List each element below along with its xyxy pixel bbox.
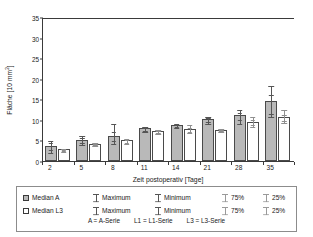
whisker-cap-p75 <box>143 128 147 129</box>
whisker-cap-min <box>187 133 193 134</box>
legend-label: 25% <box>272 194 285 201</box>
y-tick-label: 10 <box>32 117 39 124</box>
whisker-cap-p25 <box>269 114 273 115</box>
legend-label: Median A <box>32 194 60 201</box>
error-bar-icon <box>93 207 99 215</box>
error-bar-icon <box>263 207 269 215</box>
legend-minimum: Minimum <box>155 204 191 217</box>
whisker-cap-max <box>250 117 256 118</box>
legend-note-item: L1 = L1-Serie <box>134 217 173 224</box>
y-tick-label: 5 <box>35 138 39 145</box>
legend-note-item: L3 = L3-Serie <box>187 217 226 224</box>
y-tick-label: 30 <box>32 35 39 42</box>
plot-area: 05101520253035 <box>42 18 294 162</box>
y-tick-label: 0 <box>35 159 39 166</box>
x-axis-label: Zeit postoperativ [Tage] <box>133 176 204 183</box>
bar-median-a <box>171 125 183 161</box>
legend-note: A = A-SerieL1 = L1-SerieL3 = L3-Serie <box>17 217 296 224</box>
error-bar-icon <box>93 194 99 202</box>
legend-maximum: Maximum <box>93 204 131 217</box>
x-tick-mark <box>263 162 264 165</box>
legend-row: Median AMaximumMinimum75%25% <box>17 191 296 204</box>
legend-label: Maximum <box>102 194 131 201</box>
legend-p75: 75% <box>222 204 244 217</box>
whisker-cap-min <box>48 153 54 154</box>
y-axis-label-text: Fläche [10 mm <box>6 70 13 115</box>
whisker-cap-min <box>155 134 161 135</box>
x-tick-mark <box>74 162 75 165</box>
bar-median-a <box>139 128 151 161</box>
whisker-cap-p75 <box>175 125 179 126</box>
legend-label: Maximum <box>102 207 131 214</box>
whisker-cap-p25 <box>93 145 97 146</box>
whisker-cap-p75 <box>206 118 210 119</box>
error-bar-icon <box>155 207 161 215</box>
legend-label: 75% <box>231 207 244 214</box>
filled-square-icon <box>23 195 29 201</box>
open-square-icon <box>23 208 29 214</box>
whisker-cap-p75 <box>80 138 84 139</box>
x-tick-label: 8 <box>111 164 115 171</box>
figure-container: Fläche [10 mm2] 05101520253035 258111421… <box>0 0 313 237</box>
legend-label: Minimum <box>164 194 191 201</box>
whisker-cap-p75 <box>49 143 53 144</box>
whisker-cap-p25 <box>206 122 210 123</box>
y-axis-label: Fläche [10 mm2] <box>5 65 13 115</box>
whisker-cap-p25 <box>143 131 147 132</box>
x-tick-label: 11 <box>141 164 148 171</box>
y-tick-mark <box>40 79 43 80</box>
whisker-cap-p25 <box>219 131 223 132</box>
whisker-cap-min <box>268 117 274 118</box>
whisker-cap-min <box>237 124 243 125</box>
y-axis-label-tail: ] <box>6 65 13 67</box>
y-tick-mark <box>40 141 43 142</box>
legend-label: Minimum <box>164 207 191 214</box>
x-tick-label: 2 <box>48 164 52 171</box>
bar-median-l3 <box>215 130 227 161</box>
y-tick-mark <box>40 100 43 101</box>
x-tick-label: 5 <box>79 164 83 171</box>
x-tick-mark <box>231 162 232 165</box>
whisker-cap-max <box>187 125 193 126</box>
x-tick-mark <box>105 162 106 165</box>
legend-p25: 25% <box>263 204 285 217</box>
whisker-stem <box>271 86 272 117</box>
whisker-cap-min <box>124 144 130 145</box>
legend-median-a: Median A <box>23 191 60 204</box>
whisker-cap-p25 <box>175 127 179 128</box>
whisker-cap-max <box>48 141 54 142</box>
y-tick-label: 35 <box>32 15 39 22</box>
whisker-cap-p25 <box>188 132 192 133</box>
whisker-cap-min <box>281 123 287 124</box>
legend-box: Median AMaximumMinimum75%25% Median L3Ma… <box>16 186 297 232</box>
legend-note-item: A = A-Serie <box>88 217 120 224</box>
y-tick-label: 20 <box>32 76 39 83</box>
whisker-cap-p25 <box>282 121 286 122</box>
whisker-cap-min <box>205 124 211 125</box>
error-bar-icon <box>155 194 161 202</box>
y-axis-label-exponent: 2 <box>5 67 10 70</box>
legend-minimum: Minimum <box>155 191 191 204</box>
whisker-cap-p75 <box>125 140 129 141</box>
whisker-cap-min <box>79 145 85 146</box>
legend-label: 25% <box>272 207 285 214</box>
legend-label: 75% <box>231 194 244 201</box>
whisker-cap-min <box>174 128 180 129</box>
legend-maximum: Maximum <box>93 191 131 204</box>
x-tick-mark <box>168 162 169 165</box>
x-tick-mark <box>42 162 43 165</box>
bar-median-l3 <box>278 117 290 161</box>
x-tick-mark <box>294 162 295 165</box>
whisker-cap-max <box>79 136 85 137</box>
whisker-cap-p25 <box>62 151 66 152</box>
whisker-cap-max <box>281 110 287 111</box>
bar-median-a <box>202 119 214 161</box>
x-tick-mark <box>137 162 138 165</box>
legend-label: Median L3 <box>32 207 63 214</box>
whisker-cap-p25 <box>49 150 53 151</box>
whisker-cap-p25 <box>156 133 160 134</box>
legend-median-l3: Median L3 <box>23 204 63 217</box>
error-bar-icon <box>263 194 269 202</box>
whisker-cap-p75 <box>251 120 255 121</box>
legend-row: Median L3MaximumMinimum75%25% <box>17 204 296 217</box>
